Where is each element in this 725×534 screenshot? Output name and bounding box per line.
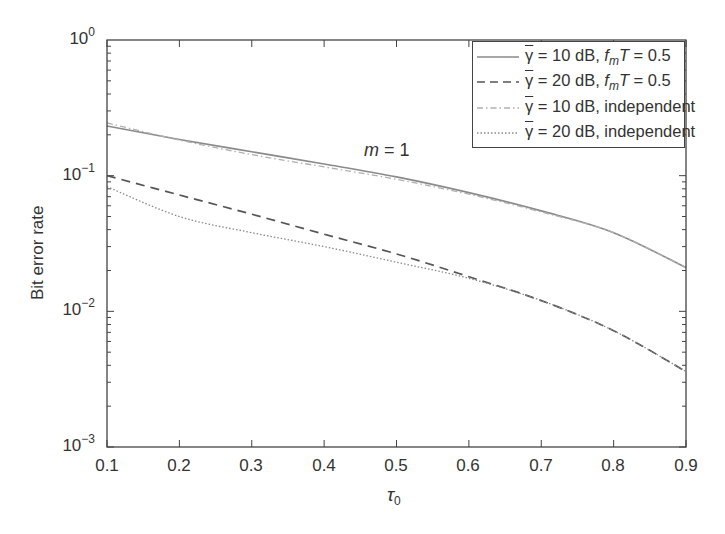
- legend-line-dotted: [475, 122, 523, 144]
- x-tick-label: 0.4: [312, 456, 336, 476]
- curve-dotted: [107, 187, 686, 372]
- y-axis-label: Bit error rate: [28, 206, 48, 300]
- x-tick-label: 0.2: [167, 456, 191, 476]
- curve-dashed: [107, 176, 686, 372]
- y-tick-1e0: 100: [69, 29, 95, 49]
- x-tick-label: 0.8: [601, 456, 625, 476]
- legend-line-dashdot: [475, 97, 523, 119]
- x-tick-label: 0.3: [239, 456, 263, 476]
- x-axis-label: τ0: [387, 484, 401, 506]
- legend-item-10db-independent: γ = 10 dB, independent: [473, 97, 684, 119]
- x-tick-label: 0.6: [456, 456, 480, 476]
- x-tick-label: 0.1: [95, 456, 119, 476]
- legend: γ = 10 dB, fmT = 0.5 γ = 20 dB, fmT = 0.…: [472, 41, 685, 148]
- legend-line-dashed: [475, 71, 523, 93]
- y-tick-1e-3: 10−3: [62, 436, 95, 456]
- legend-item-20db-independent: γ = 20 dB, independent: [473, 122, 684, 144]
- x-tick-label: 0.5: [384, 456, 408, 476]
- legend-item-20db-fmT: γ = 20 dB, fmT = 0.5: [473, 71, 684, 93]
- x-tick-label: 0.9: [674, 456, 698, 476]
- y-tick-1e-2: 10−2: [62, 300, 95, 320]
- legend-item-10db-fmT: γ = 10 dB, fmT = 0.5: [473, 46, 684, 68]
- annotation-m-equals-1: m = 1: [364, 140, 410, 161]
- legend-line-solid: [475, 46, 523, 68]
- x-tick-label: 0.7: [529, 456, 553, 476]
- y-tick-1e-1: 10−1: [62, 165, 95, 185]
